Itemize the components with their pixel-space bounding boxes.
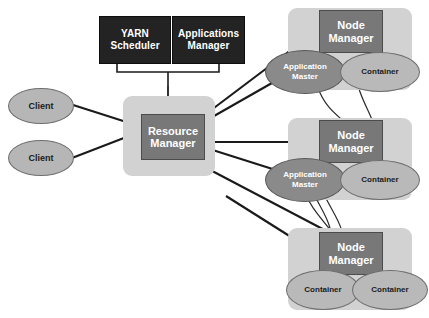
container-ellipse-4[interactable]: Container bbox=[352, 270, 428, 310]
client-ellipse-1[interactable]: Client bbox=[8, 88, 74, 124]
node-manager-label-3: Node Manager bbox=[328, 241, 373, 266]
container-ellipse-1[interactable]: Container bbox=[340, 52, 420, 92]
client-label-2: Client bbox=[28, 153, 53, 163]
container-label-2: Container bbox=[361, 175, 398, 185]
application-master-label-2: Application Master bbox=[283, 170, 327, 190]
scheduler-brace bbox=[117, 62, 219, 86]
application-master-ellipse-2[interactable]: Application Master bbox=[265, 158, 345, 202]
container-ellipse-3[interactable]: Container bbox=[286, 270, 360, 310]
yarn-scheduler-box[interactable]: YARN Scheduler bbox=[99, 16, 171, 64]
yarn-architecture-diagram: YARN Scheduler Applications Manager Reso… bbox=[0, 0, 429, 318]
client-ellipse-2[interactable]: Client bbox=[8, 140, 74, 176]
node-manager-box-1[interactable]: Node Manager bbox=[319, 10, 383, 53]
applications-manager-box[interactable]: Applications Manager bbox=[172, 16, 245, 64]
node-manager-label-1: Node Manager bbox=[328, 19, 373, 44]
resource-manager-box[interactable]: Resource Manager bbox=[141, 114, 205, 160]
application-master-ellipse-1[interactable]: Application Master bbox=[265, 50, 345, 94]
client-label-1: Client bbox=[28, 101, 53, 111]
yarn-scheduler-label: YARN Scheduler bbox=[110, 28, 159, 52]
applications-manager-label: Applications Manager bbox=[178, 28, 239, 52]
application-master-label-1: Application Master bbox=[283, 62, 327, 82]
node-manager-box-3[interactable]: Node Manager bbox=[319, 232, 383, 275]
container-ellipse-2[interactable]: Container bbox=[340, 160, 420, 200]
container-label-3: Container bbox=[304, 285, 341, 295]
resource-manager-label: Resource Manager bbox=[148, 125, 198, 150]
container-label-4: Container bbox=[371, 285, 408, 295]
node-manager-box-2[interactable]: Node Manager bbox=[319, 120, 383, 163]
container-label-1: Container bbox=[361, 67, 398, 77]
node-manager-label-2: Node Manager bbox=[328, 129, 373, 154]
